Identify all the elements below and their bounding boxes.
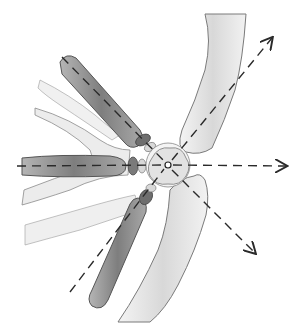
arrow-right [173,165,286,166]
pivot-point [165,162,171,168]
joint-illustration [0,0,304,326]
upper-right-bone [180,14,246,153]
illustration-canvas [0,0,304,326]
